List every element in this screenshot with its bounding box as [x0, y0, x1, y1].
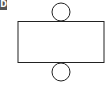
top-circle [52, 3, 70, 21]
lateral-rectangle [18, 22, 104, 63]
cylinder-net-diagram [0, 0, 105, 88]
bottom-circle [52, 63, 70, 81]
